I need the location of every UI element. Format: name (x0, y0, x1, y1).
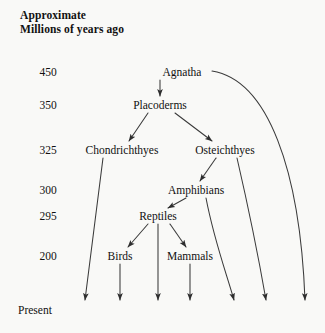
taxon-mammals: Mammals (167, 250, 213, 262)
time-label-200: 200 (39, 250, 56, 262)
time-label-350: 350 (39, 99, 56, 111)
diagram-title-line-2: Millions of years ago (20, 22, 124, 36)
taxon-birds: Birds (108, 250, 133, 262)
taxon-reptiles: Reptiles (139, 210, 177, 222)
taxon-placoderms: Placoderms (133, 99, 187, 111)
time-label-present: Present (18, 304, 52, 316)
diagram-title-line-1: Approximate (20, 8, 86, 22)
lineage-amphibians-reptiles (168, 198, 186, 208)
time-label-300: 300 (39, 184, 56, 196)
lineage-lines (0, 0, 325, 333)
evolution-diagram: Approximate Millions of years ago 450 35… (0, 0, 325, 333)
survivor-line-chondrichthyes (85, 158, 103, 300)
survivor-line-agnatha (212, 71, 305, 300)
survivor-line-osteichthyes (237, 158, 266, 300)
taxon-chondrichthyes: Chondrichthyes (86, 144, 159, 156)
taxon-agnatha: Agnatha (163, 66, 202, 78)
time-label-450: 450 (39, 66, 56, 78)
lineage-reptiles-mammals (170, 224, 186, 247)
time-label-325: 325 (39, 144, 56, 156)
lineage-reptiles-birds (128, 224, 148, 247)
taxon-amphibians: Amphibians (168, 184, 224, 196)
taxon-osteichthyes: Osteichthyes (195, 144, 254, 156)
lineage-osteichthyes-amphibians (200, 158, 216, 181)
survivor-line-amphibians (206, 198, 234, 300)
lineage-placoderms-chondrichthyes (129, 113, 148, 141)
time-label-295: 295 (39, 210, 56, 222)
lineage-placoderms-osteichthyes (175, 113, 212, 141)
